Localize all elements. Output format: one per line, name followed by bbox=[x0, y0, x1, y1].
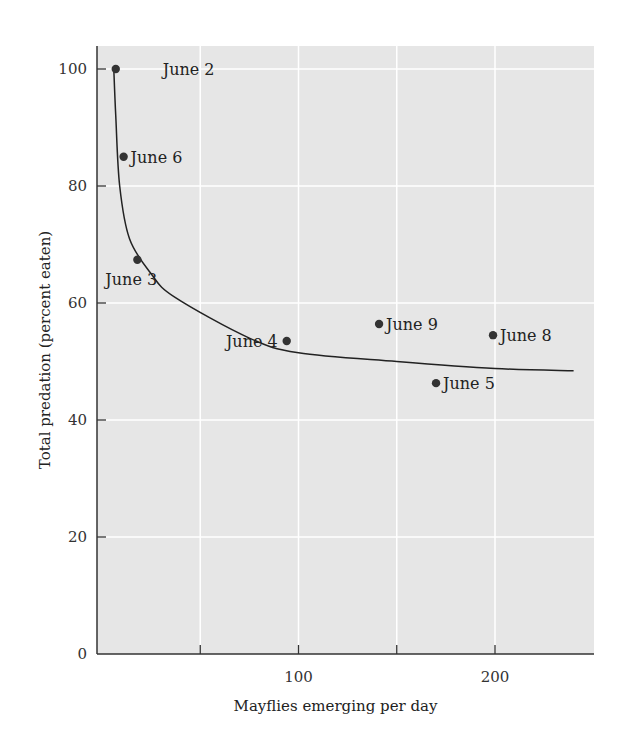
data-point-label: June 4 bbox=[224, 332, 278, 351]
data-point bbox=[489, 331, 497, 339]
y-tick-label: 0 bbox=[77, 645, 87, 663]
data-point bbox=[119, 153, 127, 161]
data-point bbox=[432, 379, 440, 387]
x-tick-label: 100 bbox=[284, 668, 313, 686]
data-point bbox=[283, 337, 291, 345]
data-point bbox=[133, 256, 141, 264]
data-point-label: June 5 bbox=[441, 374, 495, 393]
y-tick-label: 100 bbox=[58, 60, 87, 78]
data-point bbox=[375, 320, 383, 328]
y-axis-title: Total predation (percent eaten) bbox=[36, 231, 54, 469]
data-point-label: June 8 bbox=[498, 326, 552, 345]
y-tick-label: 60 bbox=[68, 294, 87, 312]
data-point bbox=[112, 65, 120, 73]
data-point-label: June 2 bbox=[161, 60, 215, 79]
x-axis-title: Mayflies emerging per day bbox=[234, 697, 438, 715]
scatter-chart: 100200020406080100 June 2June 6June 3Jun… bbox=[0, 0, 624, 744]
data-point-label: June 6 bbox=[129, 148, 183, 167]
data-point-label: June 3 bbox=[103, 270, 157, 289]
plot-background bbox=[97, 46, 594, 654]
y-tick-label: 20 bbox=[68, 528, 87, 546]
x-tick-label: 200 bbox=[481, 668, 510, 686]
y-tick-label: 40 bbox=[68, 411, 87, 429]
y-tick-label: 80 bbox=[68, 177, 87, 195]
data-point-label: June 9 bbox=[384, 315, 438, 334]
